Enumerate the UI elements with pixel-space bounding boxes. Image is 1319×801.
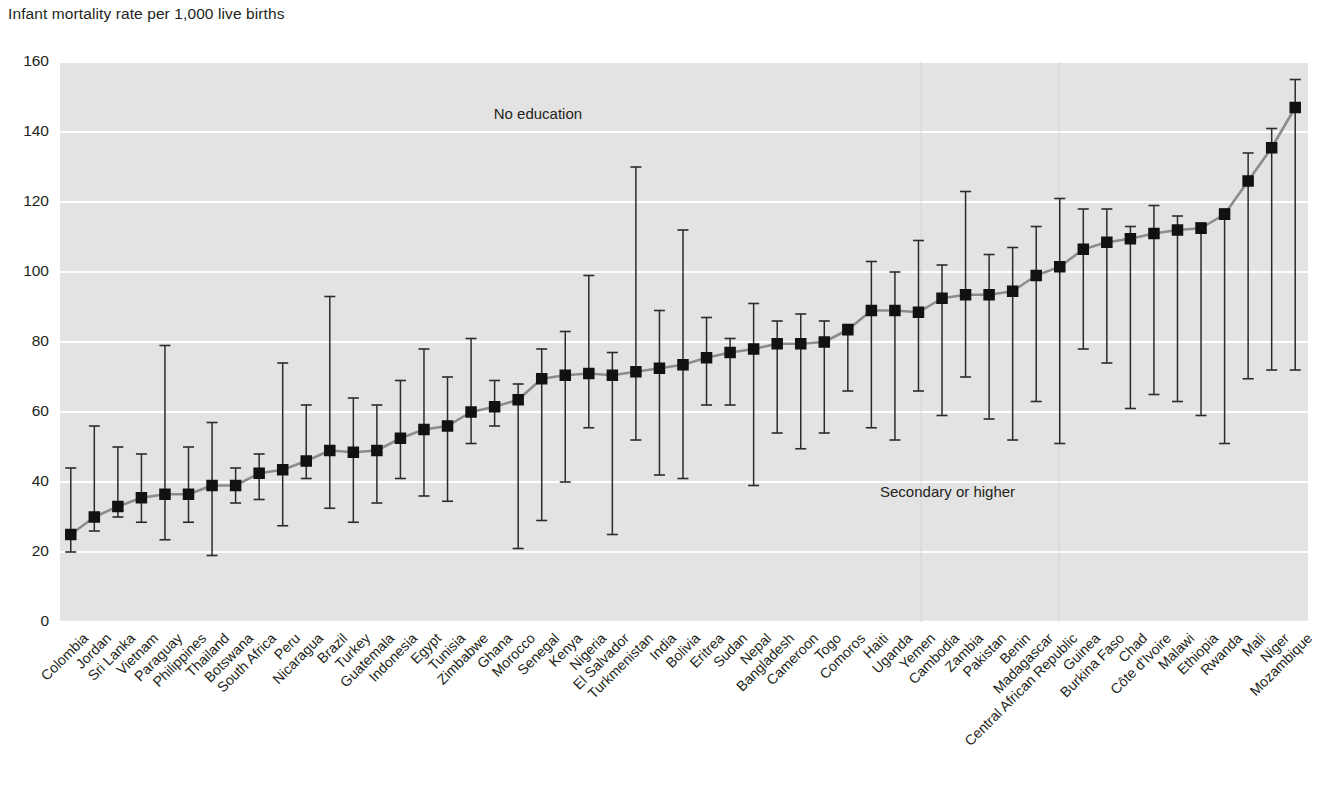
marker-square — [1195, 223, 1207, 235]
marker-square — [277, 464, 289, 476]
marker-square — [889, 305, 901, 317]
marker-square — [112, 501, 124, 513]
y-tick-label-160: 160 — [5, 52, 49, 70]
marker-square — [1148, 228, 1160, 240]
marker-square — [1266, 142, 1278, 154]
marker-square — [560, 370, 572, 382]
y-tick-label-60: 60 — [5, 402, 49, 420]
y-tick-label-80: 80 — [5, 332, 49, 350]
y-tick-label-0: 0 — [5, 612, 49, 630]
marker-square — [1242, 175, 1254, 187]
marker-square — [89, 511, 101, 523]
marker-square — [395, 433, 407, 445]
marker-square — [795, 338, 807, 350]
marker-square — [371, 445, 383, 457]
marker-square — [465, 406, 477, 418]
marker-square — [842, 324, 854, 336]
marker-square — [136, 492, 148, 504]
marker-square — [442, 420, 454, 432]
marker-square — [512, 394, 524, 406]
marker-square — [206, 480, 218, 492]
marker-square — [1125, 233, 1137, 245]
marker-square — [183, 489, 195, 501]
marker-square — [607, 370, 619, 382]
marker-square — [913, 307, 925, 319]
marker-square — [677, 359, 689, 371]
marker-square — [654, 363, 666, 375]
y-tick-label-100: 100 — [5, 262, 49, 280]
marker-square — [771, 338, 783, 350]
marker-square — [960, 289, 972, 301]
y-tick-label-20: 20 — [5, 542, 49, 560]
marker-square — [300, 455, 312, 467]
marker-square — [1007, 286, 1019, 298]
marker-square — [1078, 244, 1090, 256]
marker-square — [1101, 237, 1113, 249]
marker-square — [724, 347, 736, 359]
marker-square — [630, 366, 642, 378]
marker-square — [936, 293, 948, 305]
annotation-no-education: No education — [494, 105, 582, 122]
marker-square — [583, 368, 595, 380]
infant-mortality-chart: Infant mortality rate per 1,000 live bir… — [0, 0, 1319, 801]
marker-square — [253, 468, 265, 480]
marker-square — [1172, 224, 1184, 236]
marker-square — [159, 489, 171, 501]
marker-square — [701, 352, 713, 364]
annotation-secondary-or-higher: Secondary or higher — [880, 483, 1015, 500]
marker-square — [866, 305, 878, 317]
marker-square — [348, 447, 360, 459]
marker-square — [1219, 209, 1231, 221]
marker-square — [1030, 270, 1042, 282]
y-tick-label-120: 120 — [5, 192, 49, 210]
marker-square — [1289, 102, 1301, 114]
marker-square — [748, 343, 760, 355]
marker-square — [65, 529, 77, 541]
y-tick-label-140: 140 — [5, 122, 49, 140]
marker-square — [324, 445, 336, 457]
marker-square — [983, 289, 995, 301]
marker-square — [230, 480, 242, 492]
marker-square — [489, 401, 501, 413]
marker-square — [536, 373, 548, 385]
marker-square — [418, 424, 430, 436]
marker-square — [1054, 261, 1066, 273]
marker-square — [819, 336, 831, 348]
y-tick-label-40: 40 — [5, 472, 49, 490]
